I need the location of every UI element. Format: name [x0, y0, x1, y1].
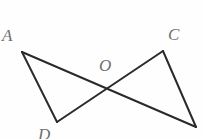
vertex-label-c: C: [168, 26, 179, 43]
vertex-label-o: O: [99, 57, 111, 74]
vertex-label-d: D: [38, 126, 50, 139]
vertex-label-a: A: [2, 27, 12, 44]
geometry-figure: A C O D: [0, 0, 203, 139]
